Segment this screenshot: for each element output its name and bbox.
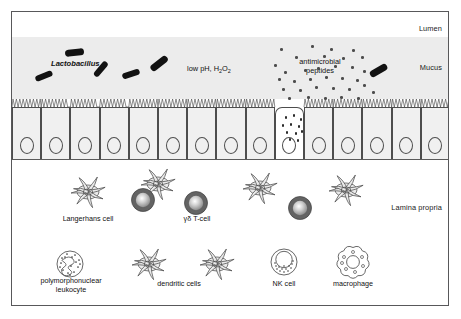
pmn-granule — [73, 271, 75, 273]
nk-membrane — [271, 249, 297, 275]
nk-granule — [292, 260, 294, 262]
nk-granule — [274, 262, 276, 264]
lamina-t-cell-left — [132, 189, 155, 212]
lamina-dendritic-cell-right — [329, 175, 363, 206]
nk-cell — [271, 249, 297, 275]
pmn-granule — [75, 261, 77, 263]
pmn-granule — [66, 253, 68, 255]
pmn-granule — [59, 266, 61, 268]
nk-granule — [281, 268, 283, 270]
nk-granule — [283, 265, 285, 267]
macrophage-membrane — [337, 246, 369, 278]
pmn-granule — [61, 257, 63, 259]
pmn-granule — [70, 265, 72, 267]
pmn-granule — [64, 256, 66, 258]
pmn-label-line-2: leukocyte — [17, 286, 125, 295]
nk-granule — [288, 265, 290, 267]
pmn-granule — [62, 269, 64, 271]
label-langerhans-cell: Langerhans cell — [36, 215, 140, 224]
pmn-granule — [79, 263, 81, 265]
pmn-granule — [74, 254, 76, 256]
tcell-nucleus — [293, 201, 307, 215]
gamma-delta-t-cell — [185, 192, 208, 215]
nk-granule — [285, 268, 287, 270]
nk-granule — [287, 270, 289, 272]
nk-granule — [291, 263, 293, 265]
nk-granule — [275, 265, 277, 267]
label-macrophage: macrophage — [303, 280, 403, 289]
langerhans-cell — [71, 177, 105, 208]
pmn-granule — [78, 259, 80, 261]
nk-granule — [279, 270, 281, 272]
dendritic-cells — [132, 249, 166, 280]
polymorphonuclear-leukocyte — [57, 251, 83, 277]
macrophage — [337, 246, 369, 278]
dendritic-cell-second — [200, 249, 234, 280]
nk-granule — [278, 266, 280, 268]
figure-frame: Lumen Mucus Epithelium Lamina propria La… — [11, 11, 449, 306]
tcell-nucleus — [136, 193, 150, 207]
nk-granule — [283, 271, 285, 273]
pmn-granule — [67, 272, 69, 274]
label-polymorphonuclear-leukocyte: polymorphonuclear leukocyte — [17, 277, 125, 294]
immune-cells-layer — [12, 12, 449, 306]
label-dendritic-cells: dendritic cells — [129, 280, 229, 289]
nk-granule — [290, 267, 292, 269]
lamina-dendritic-cell-mid — [243, 173, 277, 204]
pmn-membrane — [57, 251, 83, 277]
pmn-granule — [71, 256, 73, 258]
tcell-nucleus — [189, 196, 203, 210]
lamina-t-cell-right — [289, 197, 312, 220]
nk-granule — [276, 268, 278, 270]
label-gamma-delta-t-cell: γδ T-cell — [147, 215, 247, 224]
pmn-granule — [60, 262, 62, 264]
mucosal-immunity-diagram: Lumen Mucus Epithelium Lamina propria La… — [0, 0, 461, 319]
pmn-granule — [77, 266, 79, 268]
